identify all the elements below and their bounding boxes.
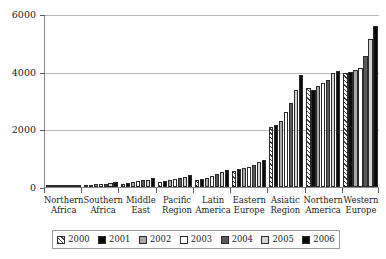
bar-asiatic-region-2004 — [289, 103, 293, 187]
bar-asiatic-region-2000 — [269, 127, 273, 187]
bar-northern-africa-2002 — [56, 185, 60, 187]
chart-legend: 2000200120022003200420052006 — [52, 230, 340, 249]
bar-chart: 0200040006000 NorthernAfricaSouthernAfri… — [0, 0, 386, 259]
bar-eastern-europe-2002 — [242, 168, 246, 187]
bar-eastern-europe-2000 — [232, 171, 236, 187]
category-label-line: Pacific — [159, 195, 195, 205]
bar-northern-africa-2001 — [51, 185, 55, 187]
bar-middle-east-2001 — [126, 183, 130, 187]
category-label-line: Western — [343, 195, 379, 205]
category-label-line: Southern — [84, 195, 123, 205]
legend-swatch-2005 — [261, 236, 269, 244]
legend-swatch-2002 — [139, 236, 147, 244]
bar-western-europe-2006 — [373, 26, 377, 187]
bar-latin-america-2003 — [210, 176, 214, 187]
bar-southern-africa-2004 — [104, 184, 108, 187]
category-label-line: East — [123, 205, 159, 215]
bar-latin-america-2001 — [200, 179, 204, 187]
category-label-line: Northern — [44, 195, 84, 205]
legend-swatch-2004 — [221, 236, 229, 244]
legend-label: 2005 — [272, 235, 293, 243]
bar-middle-east-2006 — [151, 178, 155, 187]
category-label-line: Europe — [231, 205, 267, 215]
bar-group — [82, 15, 119, 187]
category-label-line: Asiatic — [267, 195, 303, 205]
bar-latin-america-2004 — [215, 174, 219, 187]
bar-northern-africa-2000 — [46, 185, 50, 187]
bar-group — [305, 15, 342, 187]
bar-northern-america-2006 — [336, 71, 340, 187]
legend-item-2001[interactable]: 2001 — [98, 235, 130, 243]
bar-latin-america-2006 — [225, 170, 229, 187]
bar-northern-america-2005 — [331, 73, 335, 187]
legend-label: 2001 — [109, 235, 130, 243]
category-label-line: Region — [159, 205, 195, 215]
bar-western-europe-2005 — [368, 39, 372, 187]
bar-western-europe-2001 — [348, 72, 352, 187]
bar-pacific-region-2004 — [178, 178, 182, 187]
category-label: MiddleEast — [123, 195, 159, 216]
legend-label: 2006 — [313, 235, 334, 243]
bar-middle-east-2005 — [146, 180, 150, 187]
legend-label: 2004 — [232, 235, 253, 243]
bar-western-europe-2000 — [343, 73, 347, 187]
category-label: SouthernAfrica — [84, 195, 123, 216]
bar-asiatic-region-2006 — [299, 75, 303, 187]
bar-group — [119, 15, 156, 187]
bar-northern-america-2001 — [311, 90, 315, 187]
legend-label: 2000 — [68, 235, 89, 243]
bar-western-europe-2002 — [353, 70, 357, 187]
category-label: NorthernAmerica — [303, 195, 343, 216]
bar-middle-east-2000 — [121, 184, 125, 187]
legend-item-2004[interactable]: 2004 — [221, 235, 253, 243]
bar-southern-africa-2001 — [89, 185, 93, 187]
bar-latin-america-2000 — [195, 180, 199, 187]
legend-item-2005[interactable]: 2005 — [261, 235, 293, 243]
legend-item-2000[interactable]: 2000 — [57, 235, 89, 243]
category-label-line: Africa — [44, 205, 84, 215]
legend-swatch-2006 — [302, 236, 310, 244]
bar-eastern-europe-2003 — [247, 167, 251, 187]
bar-northern-africa-2003 — [61, 185, 65, 187]
bar-northern-america-2003 — [321, 83, 325, 187]
legend-item-2006[interactable]: 2006 — [302, 235, 334, 243]
bar-asiatic-region-2001 — [274, 125, 278, 187]
category-tick — [81, 188, 118, 193]
bar-pacific-region-2005 — [183, 177, 187, 187]
y-axis-tick-label: 0 — [30, 183, 36, 193]
category-label: LatinAmerica — [195, 195, 231, 216]
bar-southern-africa-2002 — [94, 184, 98, 187]
category-label-line: Eastern — [231, 195, 267, 205]
legend-label: 2003 — [191, 235, 212, 243]
category-label: PacificRegion — [159, 195, 195, 216]
bar-pacific-region-2000 — [158, 182, 162, 187]
category-label: NorthernAfrica — [44, 195, 84, 216]
bar-asiatic-region-2003 — [284, 112, 288, 187]
bar-group — [268, 15, 305, 187]
category-label-line: Region — [267, 205, 303, 215]
bar-group — [342, 15, 379, 187]
bar-northern-africa-2006 — [76, 185, 80, 187]
bar-asiatic-region-2002 — [279, 121, 283, 187]
category-label-line: Northern — [303, 195, 343, 205]
category-tick — [305, 188, 342, 193]
category-label-line: America — [195, 205, 231, 215]
y-axis-tick-label: 4000 — [12, 68, 36, 78]
category-tick-marks — [44, 188, 379, 193]
category-tick — [342, 188, 379, 193]
category-tick — [44, 188, 81, 193]
bar-group — [156, 15, 193, 187]
bar-pacific-region-2003 — [173, 179, 177, 187]
bar-southern-africa-2005 — [108, 183, 112, 187]
y-axis-tick-label: 2000 — [12, 125, 36, 135]
category-label-line: America — [303, 205, 343, 215]
bar-northern-america-2004 — [326, 80, 330, 187]
legend-item-2003[interactable]: 2003 — [180, 235, 212, 243]
bar-northern-africa-2004 — [66, 185, 70, 187]
legend-item-2002[interactable]: 2002 — [139, 235, 171, 243]
legend-swatch-2001 — [98, 236, 106, 244]
bar-middle-east-2002 — [131, 182, 135, 187]
bar-middle-east-2004 — [141, 180, 145, 187]
bar-pacific-region-2006 — [188, 175, 192, 187]
category-label: WesternEurope — [343, 195, 379, 216]
